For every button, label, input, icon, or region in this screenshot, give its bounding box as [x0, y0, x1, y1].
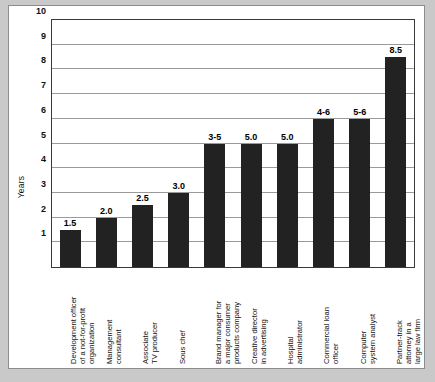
x-category-label: Management consultant	[106, 272, 124, 364]
bar-group[interactable]: 8.5Partner-track attorney in a large law…	[385, 20, 406, 267]
x-category-label: Partner-track attorney in a large law fi…	[396, 272, 423, 364]
bar[interactable]	[385, 57, 406, 267]
x-category-label: Associate TV producer	[142, 272, 160, 364]
bar-value-label: 5.0	[281, 133, 294, 142]
bar-value-label: 4-6	[317, 108, 330, 117]
x-category-label: Commercial loan officer	[323, 272, 341, 364]
y-axis-title: Years	[16, 176, 26, 198]
x-category-label: Brand manager for a major consumer produ…	[215, 272, 242, 364]
bar-value-label: 5.0	[245, 133, 258, 142]
y-tick-label: 3	[41, 179, 46, 188]
bar-group[interactable]: 2.0Management consultant	[96, 20, 117, 267]
y-tick-label: 6	[41, 105, 46, 114]
y-tick-label: 8	[41, 56, 46, 65]
y-tick-label: 9	[41, 31, 46, 40]
bar-value-label: 3.0	[172, 182, 185, 191]
bar-group[interactable]: 2.5Associate TV producer	[132, 20, 153, 267]
x-category-label: Creative director in advertising	[251, 272, 269, 364]
x-category-label: Development officer of a not-for-profit …	[70, 272, 97, 364]
y-tick-label: 7	[41, 81, 46, 90]
bar[interactable]	[349, 119, 370, 267]
bar[interactable]	[277, 144, 298, 268]
bar-group[interactable]: 4-6Commercial loan officer	[313, 20, 334, 267]
y-tick-label: 1	[41, 229, 46, 238]
x-category-label: Computer system analyst	[360, 272, 378, 364]
plot-area: 12345678910 1.5Development officer of a …	[51, 19, 415, 268]
bar[interactable]	[168, 193, 189, 267]
bar-group[interactable]: 5.0Creative director in advertising	[241, 20, 262, 267]
bar[interactable]	[241, 144, 262, 268]
bar[interactable]	[60, 230, 81, 267]
y-tick-label: 2	[41, 204, 46, 213]
bar[interactable]	[96, 218, 117, 267]
bar-value-label: 3-5	[208, 133, 221, 142]
x-category-label: Sous chef	[179, 272, 188, 364]
bar-value-label: 1.5	[64, 219, 77, 228]
bar-group[interactable]: 5-6Computer system analyst	[349, 20, 370, 267]
chart-card: Years 12345678910 1.5Development officer…	[8, 5, 425, 369]
bar-value-label: 2.0	[100, 207, 113, 216]
bar-value-label: 8.5	[390, 46, 403, 55]
bar-value-label: 5-6	[353, 108, 366, 117]
bar-group[interactable]: 1.5Development officer of a not-for-prof…	[60, 20, 81, 267]
bar[interactable]	[313, 119, 334, 267]
y-tick-label: 4	[41, 155, 46, 164]
bar-group[interactable]: 3-5Brand manager for a major consumer pr…	[204, 20, 225, 267]
bar[interactable]	[204, 144, 225, 268]
bar-group[interactable]: 5.0Hospital administrator	[277, 20, 298, 267]
y-tick-label: 10	[36, 7, 46, 16]
bar-value-label: 2.5	[136, 194, 149, 203]
bar-group[interactable]: 3.0Sous chef	[168, 20, 189, 267]
y-tick-label: 5	[41, 130, 46, 139]
bar[interactable]	[132, 205, 153, 267]
x-category-label: Hospital administrator	[287, 272, 305, 364]
